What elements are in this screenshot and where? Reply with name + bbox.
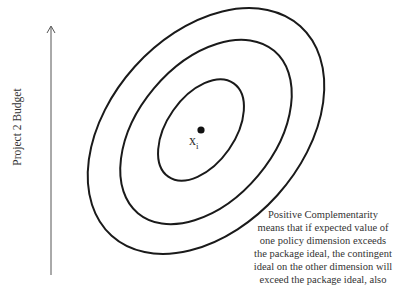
point-label: xi [189,133,199,151]
y-axis [47,26,55,275]
point-label-subscript: i [196,141,199,151]
annotation-line: one policy dimension exceeds [252,234,394,247]
annotation-line: means that if expected value of [252,221,394,234]
annotation-text: Positive Complementarity means that if e… [252,208,394,286]
point-label-text: x [189,133,196,148]
y-axis-label: Project 2 Budget [11,67,25,187]
annotation-line: exceed the package ideal, also [252,273,394,286]
annotation-line: Positive Complementarity [252,208,394,221]
annotation-line: the package ideal, the contingent [252,247,394,260]
annotation-line: ideal on the other dimension will [252,260,394,273]
